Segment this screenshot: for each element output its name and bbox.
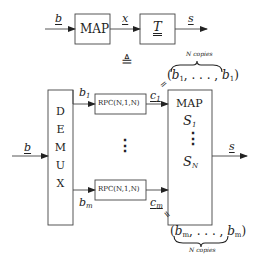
demux-letters: D E M U X — [48, 103, 73, 193]
map-s-first: S1 — [183, 114, 196, 129]
demux-letter-m: M — [48, 139, 73, 157]
top-t-label: T — [153, 21, 162, 36]
bottom-tuple: (bm, . . . , bm) — [170, 225, 246, 239]
branch1-out-label: c1 — [150, 90, 161, 103]
top-input-label: b — [55, 13, 62, 24]
map-s-title: MAP — [176, 98, 203, 109]
top-output-label: s — [188, 13, 194, 24]
bottom-copies-label: N copies — [189, 247, 216, 253]
equivalence-symbol: ≜ — [121, 54, 133, 68]
demux-letter-u: U — [48, 157, 73, 175]
branchm-out-label: cm — [150, 197, 163, 210]
top-copies-label: N copies — [186, 51, 213, 57]
map-s-dots: ⋮ — [185, 131, 201, 147]
demux-letter-e: E — [48, 121, 73, 139]
demux-letter-d: D — [48, 103, 73, 121]
top-map-label: MAP — [80, 23, 109, 35]
middle-dots: ⋮ — [117, 138, 133, 154]
demux-input-label: b — [24, 142, 31, 153]
map-output-label: s — [229, 141, 235, 152]
top-tuple: (b1, . . . , b1) — [167, 69, 239, 83]
map-s-last: SN — [183, 155, 198, 170]
diagram-lines — [0, 0, 256, 255]
demux-letter-x: X — [48, 175, 73, 193]
branchm-in-label: bm — [79, 197, 93, 210]
rpc-1-label: RPC(N,1,N) — [98, 100, 140, 107]
top-mid-label: x — [122, 13, 128, 24]
branch1-in-label: b1 — [79, 87, 91, 100]
rpc-m-label: RPC(N,1,N) — [98, 186, 140, 193]
